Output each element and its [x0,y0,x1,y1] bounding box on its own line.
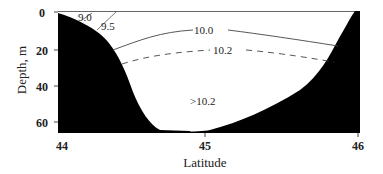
y-tick-20: 20 [36,44,48,58]
contour-label-9-5: 9.5 [101,20,115,32]
x-tick-46: 46 [352,139,364,153]
x-tick-44: 44 [56,139,68,153]
right-seabed [160,11,360,133]
contour-label-9-0: 9.0 [78,11,92,23]
annotation-gt-10-2: >10.2 [190,95,215,107]
y-axis-label: Depth, m [14,46,29,94]
x-tick-45: 45 [199,139,211,153]
contour-label-10-0: 10.0 [194,24,214,36]
left-seabed [58,13,190,133]
y-tick-60: 60 [36,116,48,130]
contour-label-10-2: 10.2 [213,44,232,56]
y-tick-0: 0 [39,6,45,20]
depth-section-chart: 9.0 9.5 10.0 10.2 >10.2 0 20 40 60 44 45… [0,0,383,174]
y-tick-40: 40 [36,80,48,94]
x-axis-label: Latitude [183,155,227,170]
